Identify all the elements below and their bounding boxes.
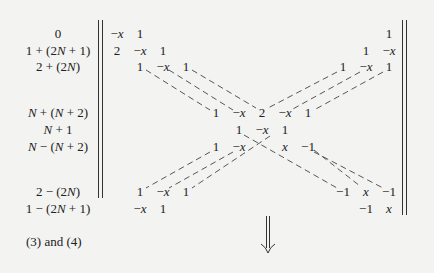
matrix-entry: 1	[305, 105, 312, 121]
matrix-entry: x	[282, 139, 288, 155]
caption: (3) and (4)	[26, 234, 82, 250]
matrix-entry: −x	[110, 26, 123, 42]
matrix-entry: −x	[156, 184, 169, 200]
matrix-entry: 1	[137, 184, 144, 200]
matrix-entry: 1	[137, 59, 144, 75]
matrix-entry: −x	[359, 59, 372, 75]
matrix-entry: 2	[114, 43, 121, 59]
matrix-entry: 1	[236, 122, 243, 138]
matrix-entry: x	[386, 201, 392, 217]
matrix-entry: −x	[133, 43, 146, 59]
matrix-entry: 1	[340, 59, 347, 75]
matrix-entry: −1	[301, 139, 315, 155]
matrix-entry: −1	[359, 201, 373, 217]
matrix-entry: −x	[255, 122, 268, 138]
matrix-entry: −x	[382, 43, 395, 59]
matrix-entry: 1	[213, 105, 220, 121]
matrix-entry: 1	[363, 43, 370, 59]
matrix-entry: −x	[278, 105, 291, 121]
matrix-entry: 1	[160, 43, 167, 59]
matrix-entry: 1	[183, 59, 190, 75]
matrix-entry: x	[363, 184, 369, 200]
matrix-entry: 2	[259, 105, 266, 121]
matrix-entry: 1	[137, 26, 144, 42]
matrix-entry: 1	[160, 201, 167, 217]
matrix-entry: −1	[382, 184, 396, 200]
matrix-entry: −x	[133, 201, 146, 217]
matrix-entry: −x	[232, 139, 245, 155]
matrix-entry: 1	[183, 184, 190, 200]
matrix-entry: 1	[386, 59, 393, 75]
diagonal-dashed-lines	[0, 0, 434, 273]
matrix-entry: −x	[232, 105, 245, 121]
matrix-entry: 1	[282, 122, 289, 138]
matrix-entry: 1	[213, 139, 220, 155]
matrix-entry: 1	[386, 26, 393, 42]
matrix-entry: −x	[156, 59, 169, 75]
matrix-entry: −1	[336, 184, 350, 200]
double-down-arrow-icon	[258, 216, 278, 256]
